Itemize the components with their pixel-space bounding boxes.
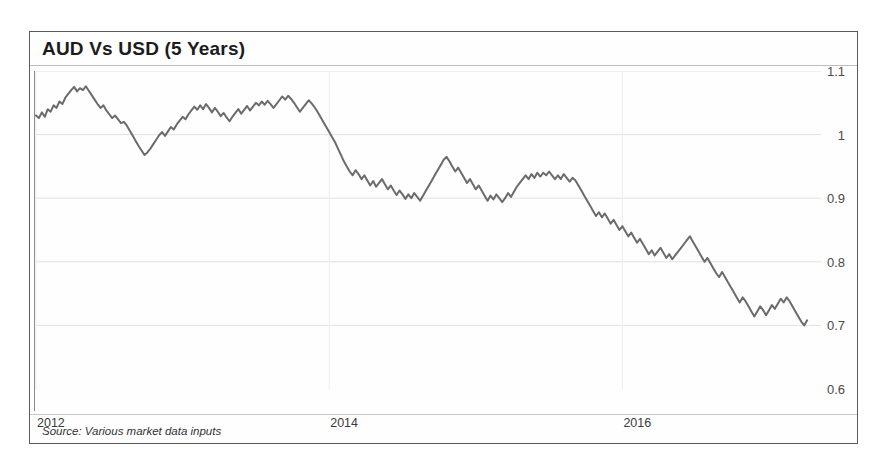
page-title: AUD Vs USD (5 Years) [42,38,245,60]
series-line-aud-usd [36,86,807,325]
gridlines [36,71,821,389]
source-note: Source: Various market data inputs [42,425,221,437]
line-chart-svg [34,71,827,389]
x-tick-label: 2016 [623,416,651,430]
source-divider [30,414,857,415]
chart-figure: AUD Vs USD (5 Years) 0.60.70.80.911.1 20… [29,31,858,444]
title-divider [30,65,857,66]
y-tick-label: 0.6 [827,382,845,397]
series-group [36,86,807,325]
y-tick-label: 0.8 [827,254,845,269]
y-tick-label: 0.7 [827,318,845,333]
plot-area [34,71,827,389]
y-tick-label: 1 [838,127,845,142]
x-tick-label: 2014 [330,416,358,430]
y-tick-label: 0.9 [827,191,845,206]
y-tick-label: 1.1 [827,64,845,79]
